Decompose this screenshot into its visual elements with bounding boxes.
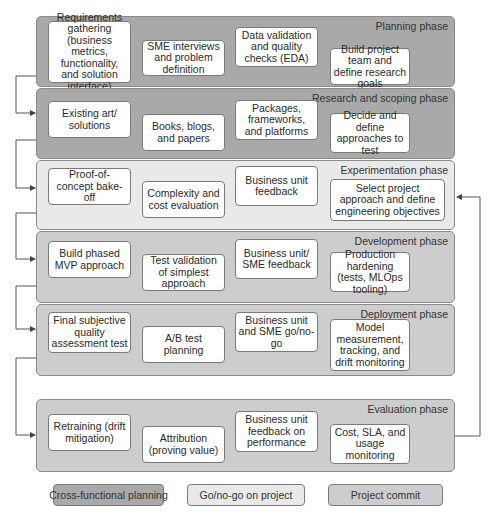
task-production-hardening: Production hardening (tests, MLOps tooli… xyxy=(330,252,410,292)
task-business-unit-sme-feedback: Business unit/ SME feedback xyxy=(235,239,318,279)
phase-title: Research and scoping phase xyxy=(312,92,448,104)
task-model-measurement: Model measurement, tracking, and drift m… xyxy=(330,319,410,371)
task-sme-interviews: SME interviews and problem definition xyxy=(142,40,225,76)
task-business-unit-feedback-performance: Business unit feedback on performance xyxy=(235,411,318,452)
legend-cross-functional-planning: Cross-functional planning xyxy=(53,484,164,506)
phase-evaluation: Evaluation phase Retraining (drift mitig… xyxy=(36,399,455,472)
task-select-project-approach: Select project approach and define engin… xyxy=(330,179,445,221)
task-cost-sla-usage: Cost, SLA, and usage monitoring xyxy=(330,424,410,464)
task-attribution: Attribution (proving value) xyxy=(142,426,225,463)
task-final-subjective-quality: Final subjective quality assessment test xyxy=(48,312,131,353)
task-business-unit-go-no-go: Business unit and SME go/no-go xyxy=(235,312,318,352)
task-proof-of-concept: Proof-of-concept bake-off xyxy=(48,168,131,205)
phase-title: Planning phase xyxy=(376,20,448,32)
task-build-project-team: Build project team and define research g… xyxy=(330,48,410,85)
task-test-validation: Test validation of simplest approach xyxy=(142,254,225,291)
phase-development: Development phase Build phased MVP appro… xyxy=(36,231,455,303)
task-books-blogs-papers: Books, blogs, and papers xyxy=(142,114,225,151)
phase-experimentation: Experimentation phase Proof-of-concept b… xyxy=(36,160,455,230)
task-retraining: Retraining (drift mitigation) xyxy=(48,414,131,451)
legend-go-no-go: Go/no-go on project xyxy=(187,484,305,506)
legend-project-commit: Project commit xyxy=(328,484,443,506)
phase-planning: Planning phase Requirements gathering (b… xyxy=(36,16,455,87)
phase-title: Experimentation phase xyxy=(341,164,448,176)
task-complexity-cost: Complexity and cost evaluation xyxy=(142,181,225,218)
phase-research-scoping: Research and scoping phase Existing art/… xyxy=(36,88,455,159)
task-packages-frameworks: Packages, frameworks, and platforms xyxy=(235,100,318,140)
task-existing-art: Existing art/ solutions xyxy=(48,101,131,138)
task-ab-test-planning: A/B test planning xyxy=(142,326,225,363)
task-build-phased-mvp: Build phased MVP approach xyxy=(48,241,131,278)
task-requirements-gathering: Requirements gathering (business metrics… xyxy=(48,21,131,83)
phase-title: Evaluation phase xyxy=(367,403,448,415)
phase-deployment: Deployment phase Final subjective qualit… xyxy=(36,304,455,376)
phase-title: Development phase xyxy=(355,235,448,247)
task-data-validation: Data validation and quality checks (EDA) xyxy=(235,27,318,67)
task-decide-approaches: Decide and define approaches to test xyxy=(330,113,410,153)
task-business-unit-feedback: Business unit feedback xyxy=(235,166,318,206)
